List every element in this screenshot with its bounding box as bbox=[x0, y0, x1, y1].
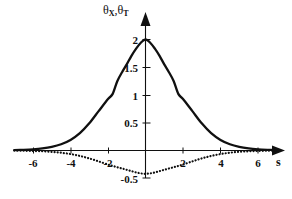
y-tick-label-2: 2 bbox=[110, 35, 138, 46]
x-tick-label-6: 6 bbox=[255, 158, 261, 169]
chart-figure: θX,θT s -6 -4 -2 2 4 6 0.5 1 1.5 2 -0.5 bbox=[0, 0, 292, 199]
y-tick-marks bbox=[143, 40, 151, 179]
x-tick-label--4: -4 bbox=[66, 158, 75, 169]
y-axis-label-sub2: T bbox=[123, 9, 128, 18]
y-tick-label-1-5: 1.5 bbox=[110, 63, 138, 74]
x-tick-label--6: -6 bbox=[28, 158, 37, 169]
y-tick-label-0-5: 0.5 bbox=[110, 118, 138, 129]
x-tick-label-4: 4 bbox=[218, 158, 224, 169]
y-tick-label-1: 1 bbox=[110, 91, 138, 102]
y-axis-label: θX,θT bbox=[103, 3, 129, 18]
x-tick-label-2: 2 bbox=[180, 158, 186, 169]
plot-canvas bbox=[0, 0, 292, 199]
x-tick-label--2: -2 bbox=[103, 158, 112, 169]
x-axis-label: s bbox=[276, 155, 281, 170]
y-tick-label--0-5: -0.5 bbox=[104, 174, 138, 185]
